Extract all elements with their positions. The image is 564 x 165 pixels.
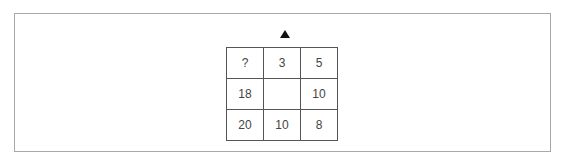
- grid-cell: 3: [264, 48, 301, 79]
- grid-cell: 10: [301, 79, 338, 110]
- grid-row: ? 3 5: [227, 48, 338, 79]
- triangle-up-icon: [280, 30, 290, 38]
- grid-row: 18 10: [227, 79, 338, 110]
- grid-cell: ?: [227, 48, 264, 79]
- grid-cell: 20: [227, 110, 264, 141]
- grid-cell: 18: [227, 79, 264, 110]
- number-grid: ? 3 5 18 10 20 10 8: [226, 47, 338, 141]
- grid-cell: 5: [301, 48, 338, 79]
- grid-cell: 10: [264, 110, 301, 141]
- grid-cell: 8: [301, 110, 338, 141]
- grid-cell: [264, 79, 301, 110]
- grid-row: 20 10 8: [227, 110, 338, 141]
